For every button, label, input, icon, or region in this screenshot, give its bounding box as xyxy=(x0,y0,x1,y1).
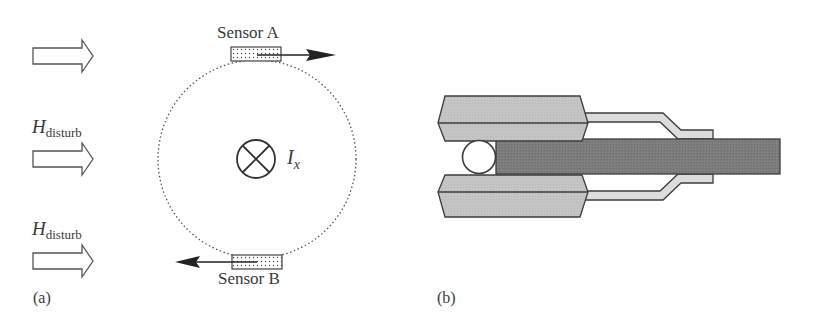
figure-canvas xyxy=(0,0,819,331)
field-arrow-icon xyxy=(33,40,93,72)
field-arrow-icon xyxy=(33,143,93,175)
lower-jaw xyxy=(438,175,588,217)
sensor-a-element xyxy=(231,47,281,61)
panel-a-label: (a) xyxy=(33,289,51,307)
current-subscript: x xyxy=(294,157,300,172)
panel-b-label: (b) xyxy=(437,289,456,307)
clamp-assembly xyxy=(438,96,780,217)
current-into-page-icon xyxy=(237,140,275,178)
upper-jaw xyxy=(438,96,588,141)
disturb-field-label: Hdisturb xyxy=(32,116,82,141)
disturb-field-label: Hdisturb xyxy=(32,218,82,243)
lower-sleeve xyxy=(585,174,713,200)
upper-sleeve xyxy=(585,113,713,139)
sensor-a-label: Sensor A xyxy=(217,23,279,43)
field-arrow-icon xyxy=(33,245,93,277)
field-symbol: H xyxy=(32,218,46,239)
conductor-bar xyxy=(496,139,780,174)
field-symbol: H xyxy=(32,116,46,137)
current-symbol: I xyxy=(287,146,294,168)
sensor-b-label: Sensor B xyxy=(218,269,280,289)
field-subscript: disturb xyxy=(46,125,82,140)
round-wire xyxy=(463,141,496,174)
current-label: Ix xyxy=(287,146,300,173)
field-subscript: disturb xyxy=(46,227,82,242)
